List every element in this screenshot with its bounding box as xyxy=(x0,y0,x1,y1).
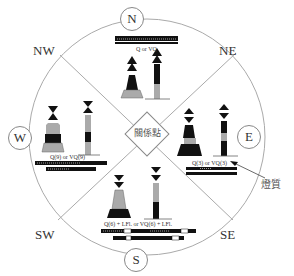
east-light-character: Q(3) or VQ(3) xyxy=(192,160,227,166)
cardinal-west: W xyxy=(8,126,32,150)
label-nw: NW xyxy=(33,44,55,57)
south-light-character: Q(6) + LFl. or VQ(6) + LFl. xyxy=(104,221,172,227)
south-marks xyxy=(101,167,196,240)
cardinal-east: E xyxy=(237,125,261,149)
cardinal-north: N xyxy=(120,7,144,31)
label-se: SE xyxy=(220,228,235,241)
north-light-character: Q or VQ xyxy=(136,46,157,52)
label-ne: NE xyxy=(219,44,236,57)
cardinal-south: S xyxy=(124,248,148,272)
label-sw: SW xyxy=(35,228,55,241)
west-light-character: Q(9) or VQ(9) xyxy=(50,154,85,160)
center-label: 關係點 xyxy=(122,126,172,139)
light-character-annotation: 燈質 xyxy=(261,176,281,191)
west-marks xyxy=(35,101,107,171)
